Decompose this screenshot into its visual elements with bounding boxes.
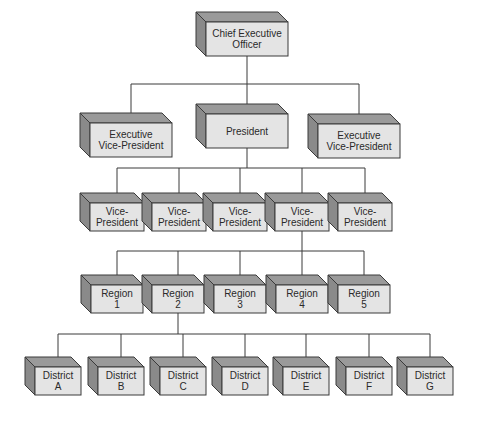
box-top-face — [80, 193, 144, 203]
node-label: Officer — [232, 39, 262, 50]
org-node-dB: DistrictB — [88, 357, 144, 395]
node-label: Vice- — [354, 206, 377, 217]
node-label: District — [354, 370, 385, 381]
node-label: 1 — [114, 299, 120, 310]
org-node-evp2: ExecutiveVice-President — [308, 114, 400, 158]
node-label: C — [179, 381, 186, 392]
connector-r2 — [58, 313, 430, 362]
node-label: B — [118, 381, 125, 392]
node-label: 4 — [299, 299, 305, 310]
node-label: President — [281, 217, 323, 228]
org-node-r3: Region3 — [204, 275, 266, 313]
node-label: A — [55, 381, 62, 392]
node-label: Vice-President — [99, 140, 164, 151]
org-node-dC: DistrictC — [150, 357, 206, 395]
org-node-dF: DistrictF — [336, 357, 392, 395]
node-label: G — [426, 381, 434, 392]
node-label: D — [241, 381, 248, 392]
org-node-r5: Region5 — [328, 275, 390, 313]
box-top-face — [204, 275, 266, 285]
node-label: 5 — [361, 299, 367, 310]
box-top-face — [203, 193, 267, 203]
box-top-face — [328, 275, 390, 285]
node-label: President — [226, 126, 268, 137]
node-label: Vice-President — [327, 141, 392, 152]
node-label: President — [219, 217, 261, 228]
node-label: District — [291, 370, 322, 381]
box-top-face — [196, 104, 288, 114]
node-label: F — [366, 381, 372, 392]
node-label: Region — [101, 288, 133, 299]
node-label: 2 — [175, 299, 181, 310]
org-node-dD: DistrictD — [212, 357, 268, 395]
org-node-vp4: Vice-President — [265, 193, 329, 231]
node-label: Chief Executive — [212, 28, 282, 39]
node-label: Vice- — [291, 206, 314, 217]
node-label: Vice- — [229, 206, 252, 217]
node-label: President — [158, 217, 200, 228]
node-label: Executive — [109, 129, 153, 140]
box-top-face — [328, 193, 392, 203]
node-label: Region — [224, 288, 256, 299]
org-node-dE: DistrictE — [273, 357, 329, 395]
node-label: President — [344, 217, 386, 228]
box-top-face — [265, 193, 329, 203]
node-label: Region — [286, 288, 318, 299]
org-node-pres: President — [196, 104, 288, 148]
node-label: Vice- — [168, 206, 191, 217]
org-node-r4: Region4 — [266, 275, 328, 313]
box-top-face — [266, 275, 328, 285]
org-node-vp3: Vice-President — [203, 193, 267, 231]
org-node-ceo: Chief ExecutiveOfficer — [196, 12, 288, 56]
node-label: 3 — [237, 299, 243, 310]
org-chart: Chief ExecutiveOfficerExecutiveVice-Pres… — [0, 0, 478, 422]
org-node-r2: Region2 — [142, 275, 204, 313]
node-label: District — [43, 370, 74, 381]
node-label: Vice- — [106, 206, 129, 217]
org-node-r1: Region1 — [81, 275, 143, 313]
org-node-evp1: ExecutiveVice-President — [80, 113, 172, 157]
box-top-face — [80, 113, 172, 123]
node-label: District — [168, 370, 199, 381]
box-top-face — [81, 275, 143, 285]
org-node-vp5: Vice-President — [328, 193, 392, 231]
node-label: Region — [348, 288, 380, 299]
node-label: District — [230, 370, 261, 381]
node-label: E — [303, 381, 310, 392]
org-node-vp1: Vice-President — [80, 193, 144, 231]
org-nodes: Chief ExecutiveOfficerExecutiveVice-Pres… — [25, 12, 453, 395]
node-label: Region — [162, 288, 194, 299]
node-label: District — [106, 370, 137, 381]
org-node-dG: DistrictG — [397, 357, 453, 395]
box-top-face — [308, 114, 400, 124]
connector-vp4 — [117, 231, 364, 280]
org-node-dA: DistrictA — [25, 357, 81, 395]
box-top-face — [142, 193, 206, 203]
node-label: Executive — [337, 130, 381, 141]
org-node-vp2: Vice-President — [142, 193, 206, 231]
box-top-face — [196, 12, 288, 22]
node-label: President — [96, 217, 138, 228]
box-top-face — [142, 275, 204, 285]
node-label: District — [415, 370, 446, 381]
